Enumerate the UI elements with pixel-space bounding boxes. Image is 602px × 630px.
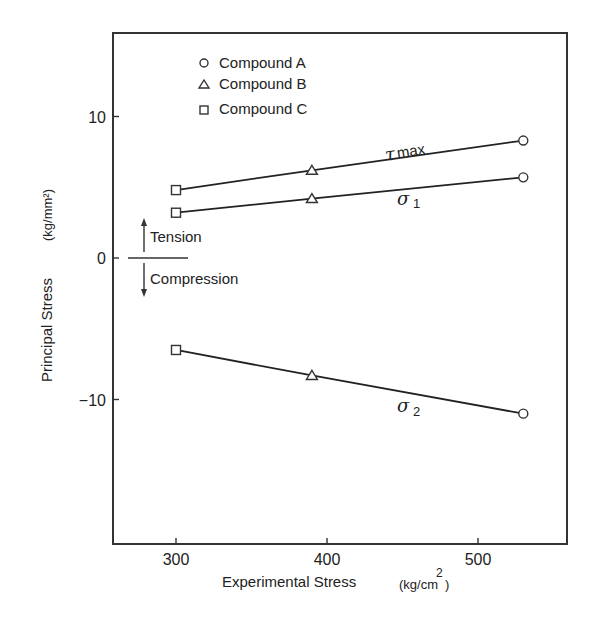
compression-label: Compression — [150, 270, 238, 287]
circle-marker-icon — [519, 409, 528, 418]
y-tick-label: 10 — [88, 109, 106, 126]
tension-label: Tension — [150, 228, 202, 245]
x-axis-label-close: ) — [445, 577, 449, 592]
y-tick-label: −10 — [79, 392, 106, 409]
legend-label-compound-c: Compound C — [219, 100, 308, 117]
legend-square-marker-icon — [200, 106, 208, 114]
svg-text:σ: σ — [397, 188, 410, 209]
x-axis-label-sup: 2 — [436, 566, 443, 580]
legend-circle-marker-icon — [200, 59, 208, 67]
x-tick-label: 400 — [314, 551, 341, 568]
series-label-sigma-1: σ 1 — [397, 188, 420, 211]
y-axis-label-unit: (kg/mm²) — [40, 189, 55, 241]
square-marker-icon — [172, 345, 181, 354]
plot-frame — [113, 33, 567, 544]
series-label-sigma-2: σ 2 — [397, 395, 420, 419]
series-2 — [172, 345, 528, 418]
principal-stress-chart: 100−10 300400500 Principal Stress (kg/mm… — [0, 0, 602, 630]
circle-marker-icon — [519, 136, 528, 145]
x-axis-label: Experimental Stress (kg/cm 2 ) — [222, 566, 449, 592]
series-0 — [172, 136, 528, 195]
legend-triangle-marker-icon — [199, 80, 209, 88]
series-label-tau-max: τ max — [383, 138, 427, 165]
series-line — [176, 350, 523, 414]
x-tick-label: 300 — [163, 551, 190, 568]
circle-marker-icon — [519, 173, 528, 182]
square-marker-icon — [172, 208, 181, 217]
square-marker-icon — [172, 186, 181, 195]
legend-label-compound-b: Compound B — [219, 75, 307, 92]
y-tick-label: 0 — [97, 250, 106, 267]
x-tick-label: 500 — [465, 551, 492, 568]
svg-text:1: 1 — [413, 196, 420, 211]
tension-compression-indicator: Tension Compression — [128, 218, 238, 297]
svg-text:max: max — [396, 140, 427, 161]
svg-text:2: 2 — [413, 404, 420, 419]
legend-label-compound-a: Compound A — [219, 54, 306, 71]
x-axis-label-unit: (kg/cm — [399, 577, 438, 592]
x-axis-ticks: 300400500 — [163, 538, 492, 568]
y-axis-label: Principal Stress (kg/mm²) — [38, 189, 55, 382]
x-axis-label-main: Experimental Stress — [222, 573, 356, 590]
legend: Compound A Compound B Compound C — [199, 54, 308, 117]
svg-text:σ: σ — [397, 395, 410, 416]
series-1 — [172, 173, 528, 217]
series-labels: τ max σ 1 σ 2 — [383, 138, 427, 419]
y-axis-label-main: Principal Stress — [38, 278, 55, 382]
